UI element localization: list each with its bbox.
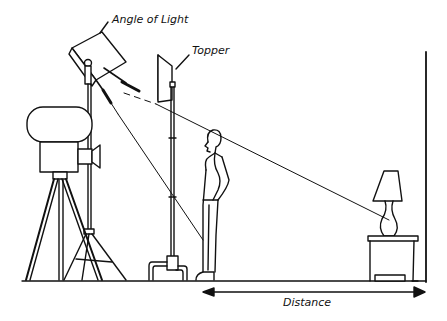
topper-flag	[149, 55, 187, 280]
angle-of-light-label: Angle of Light	[112, 13, 188, 26]
spotlight	[69, 32, 139, 103]
movie-camera	[27, 107, 100, 179]
lighting-diagram: Angle of Light Topper Distance	[0, 0, 447, 321]
standing-man	[196, 130, 229, 280]
distance-label: Distance	[283, 296, 331, 309]
angle-label-leader	[100, 22, 108, 33]
table-lamp	[373, 171, 402, 236]
light-beam-lines	[111, 93, 389, 240]
topper-label-leader	[176, 55, 189, 69]
topper-label: Topper	[192, 44, 229, 57]
nightstand	[368, 236, 418, 281]
